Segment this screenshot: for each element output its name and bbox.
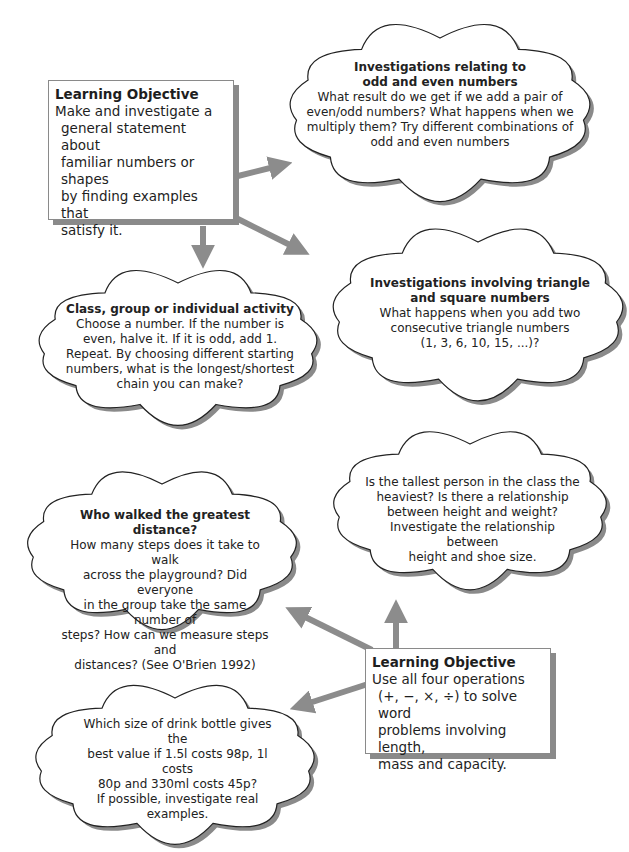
cloud-line: odd and even numbers (305, 135, 575, 150)
objective-title: Learning Objective (55, 86, 227, 103)
cloud-line: between height and weight? (365, 505, 580, 520)
cloud-line: What happens when you add two (365, 306, 595, 321)
cloud-line: distances? (See O'Brien 1992) (60, 658, 270, 673)
cloud-line: best value if 1.5l costs 98p, 1l costs (75, 747, 280, 777)
cloud-line: examples. (75, 807, 280, 822)
cloud-distance-text: Who walked the greatest distance? How ma… (60, 508, 270, 673)
cloud-line: consecutive triangle numbers (365, 321, 595, 336)
objective-line: by finding examples that (55, 188, 227, 222)
cloud-line: Investigate the relationship between (365, 520, 580, 550)
cloud-title: odd and even numbers (305, 75, 575, 90)
cloud-title: and square numbers (365, 291, 595, 306)
cloud-line: steps? How can we measure steps and (60, 628, 270, 658)
objective-line: Use all four operations (372, 671, 525, 687)
cloud-line: heaviest? Is there a relationship (365, 490, 580, 505)
cloud-line: Repeat. By choosing different starting (60, 347, 300, 362)
cloud-line: Is the tallest person in the class the (365, 475, 580, 490)
cloud-title: Investigations involving triangle (365, 276, 595, 291)
objective-text: Make and investigate a general statement… (55, 103, 227, 239)
cloud-line: chain you can make? (60, 377, 300, 392)
cloud-title: Who walked the greatest distance? (60, 508, 270, 538)
arrow-to-distance (295, 612, 372, 650)
cloud-line: multiply them? Try different combination… (305, 120, 575, 135)
cloud-bottle-text: Which size of drink bottle gives the bes… (75, 717, 280, 822)
cloud-line: across the playground? Did everyone (60, 568, 270, 598)
cloud-line: height and shoe size. (365, 550, 580, 565)
cloud-line: even, halve it. If it is odd, add 1. (60, 332, 300, 347)
objective-line: problems involving length, (372, 722, 544, 756)
cloud-line: Which size of drink bottle gives the (75, 717, 280, 747)
objective-text: Use all four operations (+, −, ×, ÷) to … (372, 671, 544, 773)
cloud-title: Class, group or individual activity (60, 302, 300, 317)
learning-objective-box-1: Learning Objective Make and investigate … (48, 80, 234, 220)
cloud-height-text: Is the tallest person in the class the h… (365, 475, 580, 565)
cloud-activity-text: Class, group or individual activity Choo… (60, 302, 300, 392)
cloud-line: What result do we get if we add a pair o… (305, 90, 575, 105)
objective-line: mass and capacity. (372, 756, 544, 773)
cloud-title: Investigations relating to (305, 60, 575, 75)
objective-line: (+, −, ×, ÷) to solve word (372, 688, 544, 722)
arrow-to-triangle (236, 218, 300, 250)
arrow-to-odd-even (234, 165, 282, 177)
cloud-triangle-text: Investigations involving triangle and sq… (365, 276, 595, 351)
cloud-line: in the group take the same number of (60, 598, 270, 628)
learning-objective-box-2: Learning Objective Use all four operatio… (365, 648, 551, 754)
objective-line: general statement about (55, 120, 227, 154)
objective-title: Learning Objective (372, 654, 544, 671)
objective-line: familiar numbers or shapes (55, 154, 227, 188)
cloud-line: even/odd numbers? What happens when we (305, 105, 575, 120)
cloud-line: If possible, investigate real (75, 792, 280, 807)
arrow-to-bottle (300, 684, 368, 706)
cloud-line: Choose a number. If the number is (60, 317, 300, 332)
cloud-odd-even-text: Investigations relating to odd and even … (305, 60, 575, 150)
cloud-line: (1, 3, 6, 10, 15, ...)? (365, 336, 595, 351)
cloud-line: How many steps does it take to walk (60, 538, 270, 568)
cloud-line: numbers, what is the longest/shortest (60, 362, 300, 377)
cloud-line: 80p and 330ml costs 45p? (75, 777, 280, 792)
objective-line: satisfy it. (55, 222, 227, 239)
objective-line: Make and investigate a (55, 103, 212, 119)
